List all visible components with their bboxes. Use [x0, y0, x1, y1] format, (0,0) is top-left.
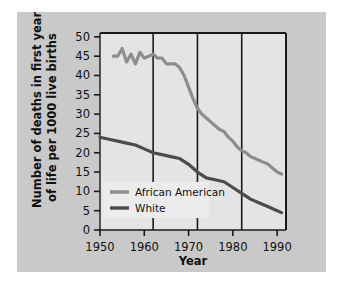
y-tick-label-0: 0 [83, 223, 90, 237]
y-tick-label-20: 20 [75, 146, 90, 160]
y-tick-label-50: 50 [75, 30, 90, 44]
line-chart: 05101520253035404550 1950196019701980199… [17, 12, 326, 272]
x-tick-label-1950: 1950 [85, 240, 114, 254]
y-tick-label-30: 30 [75, 107, 90, 121]
y-tick-label-15: 15 [75, 165, 90, 179]
figure-container: 05101520253035404550 1950196019701980199… [17, 12, 326, 272]
y-axis: 05101520253035404550 [75, 30, 100, 237]
legend-label-african-american: African American [135, 186, 225, 198]
y-tick-label-5: 5 [83, 204, 90, 218]
x-axis-title: Year [178, 254, 208, 268]
y-tick-label-10: 10 [75, 184, 90, 198]
x-tick-label-1960: 1960 [130, 240, 159, 254]
y-tick-label-45: 45 [75, 49, 90, 63]
y-axis-title-line-2: of life per 1000 live births [45, 33, 59, 202]
y-axis-title-line-1: Number of deaths in first year [30, 12, 44, 208]
x-axis: 19501960197019801990 [85, 230, 291, 254]
x-tick-label-1980: 1980 [218, 240, 247, 254]
y-tick-label-35: 35 [75, 88, 90, 102]
y-tick-label-40: 40 [75, 68, 90, 82]
x-tick-label-1990: 1990 [262, 240, 291, 254]
y-axis-title: Number of deaths in first year of life p… [30, 12, 59, 208]
y-tick-label-25: 25 [75, 126, 90, 140]
chart-legend: African American White [103, 182, 225, 218]
legend-label-white: White [135, 202, 166, 214]
x-tick-label-1970: 1970 [174, 240, 203, 254]
